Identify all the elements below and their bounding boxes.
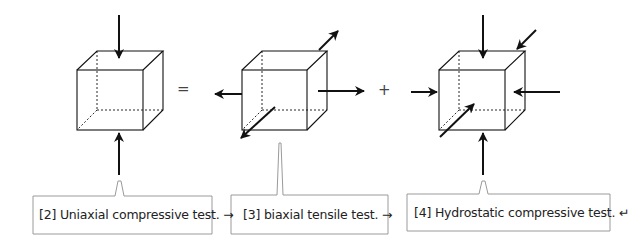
arrow-front-diagonal-out-icon: [241, 107, 275, 138]
caption-biaxial: [3] biaxial tensile test. →: [243, 207, 392, 222]
caption-uniaxial: [2] Uniaxial compressive test. →: [39, 207, 234, 222]
equals-sign: =: [177, 80, 190, 98]
arrow-back-diagonal-out-icon: [319, 31, 338, 50]
arrows-biaxial: [215, 31, 364, 138]
cube-biaxial: [242, 51, 327, 130]
cube-uniaxial: [77, 51, 163, 130]
cube-hydrostatic: [439, 51, 525, 130]
arrows-hydrostatic: [411, 15, 560, 175]
plus-sign: +: [378, 81, 391, 99]
caption-hydrostatic: [4] Hydrostatic compressive test. ↵: [414, 205, 629, 220]
arrow-back-diagonal-in-icon: [517, 30, 536, 49]
arrow-front-diagonal-in-icon: [440, 104, 474, 137]
